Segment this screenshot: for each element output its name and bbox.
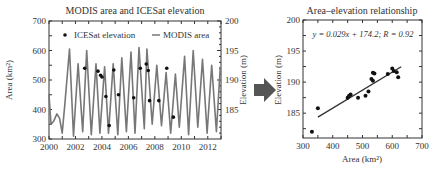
y-tick-label: 200 bbox=[287, 15, 301, 25]
icesat-point bbox=[144, 62, 148, 66]
x-tick-label: 2008 bbox=[146, 142, 165, 152]
right-chart-title: Area–elevation relationship bbox=[307, 5, 418, 16]
left-legend: ICESat elevation MODIS area bbox=[63, 30, 209, 40]
icesat-point bbox=[172, 115, 176, 119]
x-tick-label: 2006 bbox=[119, 142, 138, 152]
icesat-point bbox=[107, 124, 111, 128]
icesat-point bbox=[148, 99, 152, 103]
legend-label-modis: MODIS area bbox=[163, 30, 209, 40]
right-series bbox=[310, 66, 401, 133]
y-right-tick-label: 185 bbox=[225, 105, 239, 115]
right-x-ticks: 300400500600700 bbox=[296, 20, 429, 151]
scatter-point bbox=[395, 70, 399, 74]
scatter-point bbox=[396, 75, 400, 79]
icesat-point bbox=[96, 69, 100, 73]
right-y-axis-label: Elevation (m) bbox=[273, 55, 283, 105]
scatter-point bbox=[372, 71, 376, 75]
icesat-point bbox=[132, 96, 136, 100]
area-elevation-relationship-chart: Area–elevation relationship 300400500600… bbox=[273, 5, 429, 164]
y-tick-label: 185 bbox=[287, 108, 301, 118]
figure: MODIS area and ICESat elevation 20002002… bbox=[0, 0, 444, 177]
scatter-point bbox=[316, 106, 320, 110]
y-tick-label: 400 bbox=[33, 105, 47, 115]
y-right-tick-label: 190 bbox=[225, 75, 239, 85]
y-right-tick-label: 195 bbox=[225, 46, 239, 56]
x-tick-label: 2012 bbox=[199, 142, 217, 152]
icesat-point bbox=[165, 66, 169, 70]
icesat-point bbox=[117, 93, 121, 97]
y-tick-label: 195 bbox=[287, 46, 301, 56]
x-tick-label: 2010 bbox=[172, 142, 191, 152]
scatter-point bbox=[349, 93, 353, 97]
y-right-tick-label: 200 bbox=[225, 16, 239, 26]
left-y-right-axis-label: Elevation (m) bbox=[238, 55, 248, 105]
left-chart-title: MODIS area and ICESat elevation bbox=[66, 5, 205, 16]
area-elevation-timeseries-chart: MODIS area and ICESat elevation 20002002… bbox=[4, 5, 248, 152]
scatter-point bbox=[371, 79, 375, 83]
icesat-point bbox=[104, 95, 108, 99]
scatter-point bbox=[386, 72, 390, 76]
y-tick-label: 500 bbox=[33, 75, 47, 85]
x-tick-label: 300 bbox=[296, 141, 310, 151]
x-tick-label: 2004 bbox=[93, 142, 112, 152]
y-tick-label: 190 bbox=[287, 77, 301, 87]
modis-area-line bbox=[49, 48, 220, 137]
y-tick-label: 700 bbox=[33, 16, 47, 26]
scatter-point bbox=[363, 94, 367, 98]
icesat-point bbox=[83, 66, 87, 70]
scatter-point bbox=[366, 89, 370, 93]
x-tick-label: 600 bbox=[386, 141, 400, 151]
left-series bbox=[49, 48, 220, 137]
legend-label-icesat: ICESat elevation bbox=[74, 30, 136, 40]
icesat-point bbox=[100, 75, 104, 79]
x-tick-label: 700 bbox=[415, 141, 429, 151]
y-tick-label: 300 bbox=[33, 134, 47, 144]
legend-dot-marker bbox=[63, 33, 67, 37]
left-y-axis-label: Area (km²) bbox=[4, 60, 14, 100]
scatter-point bbox=[310, 130, 314, 134]
x-tick-label: 400 bbox=[326, 141, 340, 151]
x-tick-label: 500 bbox=[356, 141, 370, 151]
left-x-ticks: 2000200220042006200820102012 bbox=[40, 21, 221, 152]
icesat-point bbox=[138, 66, 142, 70]
icesat-point bbox=[146, 69, 150, 73]
icesat-point bbox=[157, 99, 161, 103]
x-tick-label: 2002 bbox=[66, 142, 84, 152]
scatter-point bbox=[356, 96, 360, 100]
right-x-axis-label: Area (km²) bbox=[342, 154, 382, 164]
icesat-point bbox=[112, 68, 116, 72]
regression-annotation: y = 0.029x + 174.2; R = 0.92 bbox=[312, 29, 415, 39]
y-tick-label: 600 bbox=[33, 46, 47, 56]
